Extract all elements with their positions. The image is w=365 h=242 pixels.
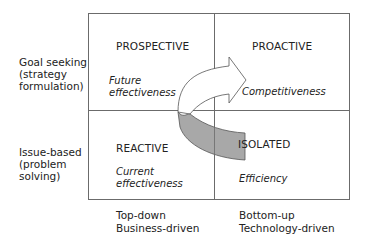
column-label-line: Top-down xyxy=(116,209,199,222)
row-label-line: (problem xyxy=(19,158,82,170)
quadrant-subtitle-reactive: Current effectiveness xyxy=(116,166,183,190)
curved-arrow-icon xyxy=(178,57,246,114)
column-label-line: Technology-driven xyxy=(239,222,335,235)
row-label-line: solving) xyxy=(19,170,82,182)
quadrant-subtitle-prospective: Future effectiveness xyxy=(109,75,176,99)
row-label-line: (strategy xyxy=(19,68,87,80)
column-label-top-down: Top-down Business-driven xyxy=(116,209,199,234)
subtitle-line: Current xyxy=(116,166,183,178)
column-label-line: Business-driven xyxy=(116,222,199,235)
quadrant-subtitle-isolated: Efficiency xyxy=(239,173,288,185)
shaded-band-icon xyxy=(178,112,245,160)
column-label-bottom-up: Bottom-up Technology-driven xyxy=(239,209,335,234)
subtitle-line: effectiveness xyxy=(116,178,183,190)
row-label-goal-seeking: Goal seeking (strategy formulation) xyxy=(19,56,87,92)
row-label-line: formulation) xyxy=(19,80,87,92)
row-label-line: Issue-based xyxy=(19,146,82,158)
subtitle-line: Future xyxy=(109,75,176,87)
subtitle-line: effectiveness xyxy=(109,87,176,99)
quadrant-title-proactive: PROACTIVE xyxy=(252,40,312,52)
row-label-line: Goal seeking xyxy=(19,56,87,68)
quadrant-title-reactive: REACTIVE xyxy=(116,142,168,154)
row-label-issue-based: Issue-based (problem solving) xyxy=(19,146,82,182)
diagram-graphics xyxy=(0,0,365,242)
quadrant-title-prospective: PROSPECTIVE xyxy=(116,40,189,52)
quadrant-subtitle-proactive: Competitiveness xyxy=(242,86,326,98)
quadrant-title-isolated: ISOLATED xyxy=(238,138,290,150)
column-label-line: Bottom-up xyxy=(239,209,335,222)
